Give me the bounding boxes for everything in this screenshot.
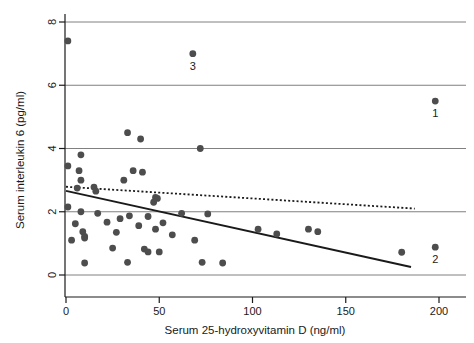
data-point [135,222,142,229]
data-point [81,260,88,267]
data-point [76,167,83,174]
data-point [137,136,144,143]
data-point [113,229,120,236]
data-point [178,210,185,217]
data-point [92,188,99,195]
x-tick-label-0: 0 [63,305,69,317]
data-point [160,219,167,226]
chart-background [0,0,474,343]
data-point [124,259,131,266]
data-point [74,185,81,192]
data-point [156,249,163,256]
data-point [64,38,71,45]
data-point [78,208,85,215]
data-point [64,204,71,211]
data-point [64,162,71,169]
data-point [78,177,85,184]
y-tick-label-8: 8 [46,19,58,25]
point-label-3: 3 [190,60,196,72]
data-point [432,98,439,105]
chart-canvas: 02468 050100150200 312 Serum interleukin… [0,0,474,343]
data-point [81,235,88,242]
data-point [145,213,152,220]
data-point [432,244,439,251]
data-point [255,226,262,233]
data-point [199,259,206,266]
x-tick-label-50: 50 [153,305,165,317]
data-point [72,220,79,227]
y-tick-label-4: 4 [46,145,58,151]
data-point [189,50,196,57]
data-point [109,245,116,252]
point-label-2: 2 [432,253,438,265]
data-point [126,212,133,219]
data-point [169,231,176,238]
data-point [130,167,137,174]
data-point [219,260,226,267]
data-point [152,226,159,233]
scatter-plot-figure: 02468 050100150200 312 Serum interleukin… [0,0,474,343]
x-tick-label-150: 150 [337,305,355,317]
data-point [204,211,211,218]
data-point [139,169,146,176]
data-point [117,215,124,222]
data-point [104,219,111,226]
x-tick-label-200: 200 [430,305,448,317]
data-point [78,151,85,158]
data-point [68,237,75,244]
data-point [94,210,101,217]
y-tick-label-6: 6 [46,82,58,88]
data-point [120,177,127,184]
data-point [150,199,157,206]
data-point [305,226,312,233]
data-point [197,145,204,152]
data-point [314,228,321,235]
x-axis-title: Serum 25-hydroxyvitamin D (ng/ml) [165,324,346,336]
data-point [273,230,280,237]
x-tick-label-100: 100 [243,305,261,317]
y-axis-title: Serum interleukin 6 (pg/ml) [14,91,26,229]
y-tick-label-0: 0 [46,272,58,278]
point-label-1: 1 [432,107,438,119]
data-point [191,237,198,244]
data-point [145,249,152,256]
y-tick-label-2: 2 [46,209,58,215]
data-point [398,249,405,256]
data-point [124,129,131,136]
